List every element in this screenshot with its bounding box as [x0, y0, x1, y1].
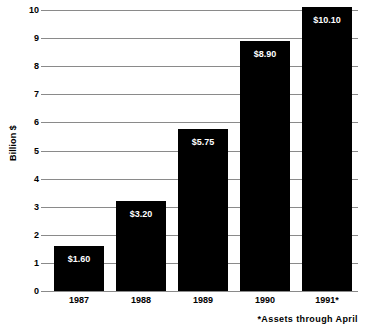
- y-axis-tick-label: 3: [19, 203, 39, 212]
- y-axis-tick-mark: [41, 179, 48, 180]
- y-axis-tick-mark: [41, 151, 48, 152]
- y-axis-tick-label: 7: [19, 90, 39, 99]
- bar: $8.90: [240, 41, 290, 291]
- y-axis-tick-mark: [41, 207, 48, 208]
- y-axis-tick-mark: [41, 94, 48, 95]
- y-axis-tick-label: 4: [19, 175, 39, 184]
- y-axis-tick-mark: [41, 122, 48, 123]
- x-axis-tick-label: 1991*: [296, 296, 358, 305]
- x-axis-tick-label: 1987: [48, 296, 110, 305]
- x-axis-tick-label: 1990: [234, 296, 296, 305]
- bar-value-label: $1.60: [54, 255, 104, 264]
- bar: $3.20: [116, 201, 166, 291]
- y-axis-tick-mark: [41, 66, 48, 67]
- bar-value-label: $10.10: [302, 16, 352, 25]
- y-axis-title: Billion $: [8, 108, 18, 178]
- plot-area: $1.60$3.20$5.75$8.90$10.10: [48, 10, 358, 291]
- bar-value-label: $8.90: [240, 50, 290, 59]
- x-axis-tick-label: 1989: [172, 296, 234, 305]
- y-axis-tick-label: 8: [19, 62, 39, 71]
- y-axis-tick-label: 5: [19, 147, 39, 156]
- y-axis-tick-label: 2: [19, 231, 39, 240]
- y-axis-tick-mark: [41, 235, 48, 236]
- bar: $10.10: [302, 7, 352, 291]
- y-axis-tick-mark: [41, 10, 48, 11]
- bar: $5.75: [178, 129, 228, 291]
- bar-chart: Billion $ 012345678910 $1.60$3.20$5.75$8…: [0, 0, 366, 331]
- gridline: [48, 291, 358, 292]
- y-axis-tick-label: 1: [19, 259, 39, 268]
- footnote-annotation: *Assets through April: [257, 314, 358, 324]
- bar: $1.60: [54, 246, 104, 291]
- bar-value-label: $5.75: [178, 138, 228, 147]
- y-axis-tick-mark: [41, 291, 48, 292]
- y-axis-tick-label: 9: [19, 34, 39, 43]
- x-axis-tick-label: 1988: [110, 296, 172, 305]
- y-axis-tick-label: 10: [19, 6, 39, 15]
- y-axis-tick-mark: [41, 38, 48, 39]
- bar-value-label: $3.20: [116, 210, 166, 219]
- y-axis-tick-mark: [41, 263, 48, 264]
- y-axis-tick-label: 0: [19, 287, 39, 296]
- y-axis-tick-label: 6: [19, 118, 39, 127]
